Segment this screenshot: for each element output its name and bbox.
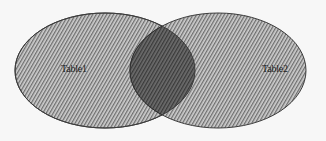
table1-label: Table1 bbox=[61, 64, 87, 74]
table2-label: Table2 bbox=[262, 64, 288, 74]
